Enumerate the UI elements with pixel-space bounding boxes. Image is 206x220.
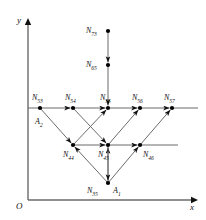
node-label-N46: N46 <box>143 151 154 161</box>
label-subscript: 44 <box>68 155 74 161</box>
label-subscript: 53 <box>37 98 43 104</box>
label-subscript: 55 <box>105 98 111 104</box>
node-dot-N65 <box>106 63 110 67</box>
label-subscript: 1 <box>118 191 121 197</box>
edge-N54-N45 <box>73 108 106 143</box>
axes-layer <box>25 18 198 203</box>
diagram-canvas: N73N65N53N54N55N56N57N44N45N46N35A1A2 y … <box>0 0 206 220</box>
node-label-N56: N56 <box>132 94 143 104</box>
node-dot-N54 <box>71 106 75 110</box>
node-label-N35: N35 <box>87 187 98 197</box>
label-subscript: 35 <box>92 191 98 197</box>
edge-N46-N57 <box>140 110 170 145</box>
node-dot-N56 <box>138 106 142 110</box>
label-subscript: 2 <box>40 122 43 128</box>
node-dot-N57 <box>170 106 174 110</box>
node-dot-N45 <box>106 143 110 147</box>
node-label-N65: N65 <box>86 61 97 71</box>
node-dot-N55 <box>106 106 110 110</box>
label-subscript: 45 <box>103 155 109 161</box>
node-label-N54: N54 <box>65 94 76 104</box>
label-subscript: 46 <box>148 155 154 161</box>
edge-N44-N55 <box>73 110 106 145</box>
x-axis-label: x <box>190 203 194 212</box>
point-label-A1: A1 <box>113 187 121 197</box>
y-axis-label: y <box>17 16 21 25</box>
node-label-N73: N73 <box>86 27 97 37</box>
origin-label: O <box>16 202 23 211</box>
node-layer <box>38 29 174 185</box>
point-label-A2: A2 <box>35 118 43 128</box>
node-label-N55: N55 <box>100 94 111 104</box>
node-dot-N35 <box>106 181 110 185</box>
node-dot-N46 <box>138 143 142 147</box>
diagram-graphics <box>0 0 206 220</box>
node-dot-N44 <box>71 143 75 147</box>
node-dot-N73 <box>106 29 110 33</box>
node-label-N53: N53 <box>32 94 43 104</box>
label-subscript: 54 <box>70 98 76 104</box>
label-subscript: 57 <box>169 98 175 104</box>
edge-N35-N46 <box>108 147 138 183</box>
label-subscript: 65 <box>91 65 97 71</box>
y-axis-arrowhead <box>25 18 31 25</box>
label-subscript: 73 <box>91 31 97 37</box>
edge-N53-N44 <box>40 108 71 143</box>
edge-N45-N56 <box>108 110 138 145</box>
node-label-N45: N45 <box>98 151 109 161</box>
node-label-N57: N57 <box>164 94 175 104</box>
node-dot-N53 <box>38 106 42 110</box>
node-label-N44: N44 <box>63 151 74 161</box>
label-subscript: 56 <box>137 98 143 104</box>
